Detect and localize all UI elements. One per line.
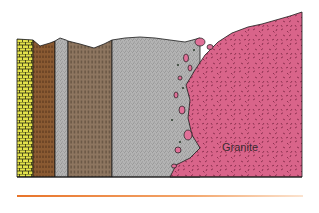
gray-fine-layer <box>55 38 68 177</box>
brown-layer-1 <box>33 40 55 177</box>
divider-rule <box>17 195 303 197</box>
granite-label: Granite <box>222 141 258 153</box>
yellow-brick-layer <box>17 39 33 177</box>
brown-gray-layer <box>68 40 112 177</box>
geologic-cross-section <box>0 0 319 213</box>
